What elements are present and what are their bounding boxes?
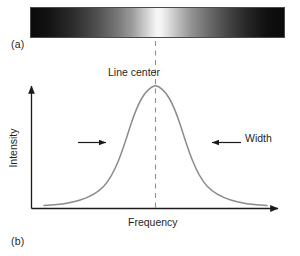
x-axis-title: Frequency: [128, 216, 178, 228]
figure-container: (a) Line center Width Intensity Frequenc…: [0, 0, 300, 256]
width-annotation-label: Width: [245, 132, 272, 144]
panel-label-b: (b): [11, 235, 24, 247]
y-axis-title: Intensity: [7, 118, 19, 178]
line-center-annotation-label: Line center: [108, 66, 160, 78]
